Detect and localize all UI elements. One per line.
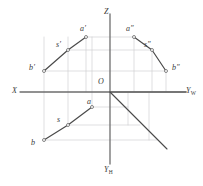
- point-b[interactable]: [43, 139, 46, 142]
- label-s-double-prime: s″: [144, 41, 151, 49]
- label-s-prime: s′: [56, 41, 61, 49]
- axis-label-z-axis: Z: [104, 8, 109, 16]
- figure-canvas: [0, 0, 203, 186]
- axis-label-yw-axis-subscript: W: [191, 90, 196, 96]
- axis-label-x-axis: X: [12, 87, 17, 95]
- label-s: s: [57, 116, 60, 124]
- point-s-prime[interactable]: [67, 49, 70, 52]
- axis-label-yw-axis: YW: [186, 87, 196, 96]
- label-a: a: [87, 98, 91, 106]
- point-a-double-prime[interactable]: [133, 36, 136, 39]
- label-b-double-prime: b″: [172, 64, 180, 72]
- label-b-prime: b′: [29, 64, 35, 72]
- label-a-prime: a′: [80, 25, 86, 33]
- point-a-prime[interactable]: [85, 36, 88, 39]
- origin-label: O: [98, 78, 104, 86]
- front-view-polyline[interactable]: [44, 37, 86, 71]
- projection-figure: XZYWYHOb′s′a′a″s″b″bsa: [0, 0, 203, 186]
- point-b-double-prime[interactable]: [165, 70, 168, 73]
- axis-label-yh-axis-subscript: H: [109, 169, 113, 175]
- point-b-prime[interactable]: [43, 70, 46, 73]
- label-a-double-prime: a″: [126, 25, 134, 33]
- forty-five-degree-line: [110, 92, 167, 149]
- label-b: b: [31, 139, 35, 147]
- point-s[interactable]: [67, 124, 70, 127]
- axis-label-yh-axis: YH: [104, 166, 113, 175]
